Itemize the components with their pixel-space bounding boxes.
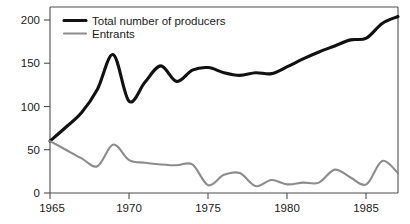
legend-label-entrants: Entrants (92, 28, 135, 40)
series-group (50, 17, 398, 187)
y-tick-label-0: 0 (34, 187, 40, 199)
legend-label-total-number-of-producers: Total number of producers (92, 15, 226, 27)
y-tick-label-150: 150 (21, 57, 40, 69)
x-axis-labels: 1965 1970 1975 1980 1985 (39, 202, 379, 214)
x-tick-label-1970: 1970 (116, 202, 142, 214)
y-tick-label-200: 200 (21, 14, 40, 26)
chart-legend: Total number of producers Entrants (64, 15, 226, 40)
x-tick-label-1965: 1965 (39, 202, 65, 214)
x-tick-label-1980: 1980 (274, 202, 300, 214)
x-tick-label-1985: 1985 (353, 202, 379, 214)
chart-canvas: 0 50 100 150 200 1965 1970 1975 1980 198… (0, 0, 410, 224)
x-axis-ticks (50, 193, 366, 199)
y-axis-labels: 0 50 100 150 200 (21, 14, 40, 199)
series-line-entrants (50, 141, 398, 186)
y-tick-label-50: 50 (27, 144, 40, 156)
y-tick-label-100: 100 (21, 101, 40, 113)
y-axis-ticks (44, 20, 50, 193)
chart-figure: 0 50 100 150 200 1965 1970 1975 1980 198… (0, 0, 410, 224)
x-tick-label-1975: 1975 (195, 202, 221, 214)
